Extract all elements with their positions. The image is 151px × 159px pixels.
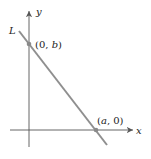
line-label: L [8, 25, 16, 36]
y-intercept-label: (0, b) [35, 39, 62, 50]
line-intercepts-diagram: y x L (0, b) (a, 0) [0, 0, 151, 159]
x-intercept-label: (a, 0) [97, 115, 124, 126]
x-axis-label: x [136, 125, 142, 136]
line-l [19, 31, 107, 145]
y-intercept-point [27, 42, 32, 47]
y-axis-label: y [35, 6, 42, 17]
x-intercept-point [94, 128, 99, 133]
